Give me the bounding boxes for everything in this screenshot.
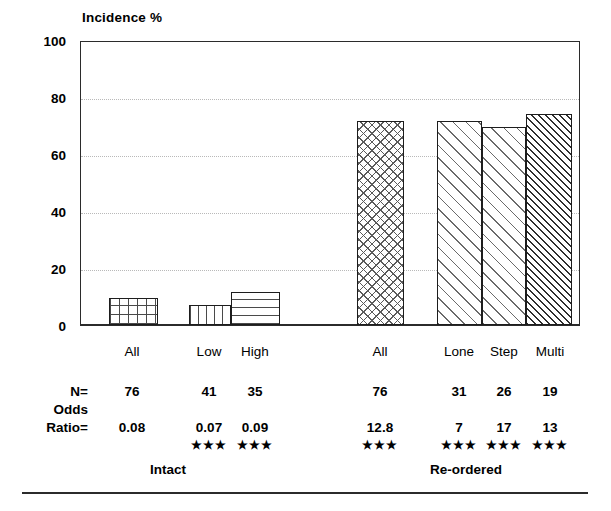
- y-tick-0: 0: [24, 319, 66, 334]
- bar-intact-low[interactable]: [189, 305, 231, 325]
- n-value-reordered-step: 26: [496, 384, 511, 399]
- x-label-intact-low: Low: [197, 344, 222, 359]
- n-value-reordered-multi: 19: [542, 384, 557, 399]
- x-label-reordered-lone: Lone: [444, 344, 474, 359]
- odds-value-reordered-multi: 13: [542, 420, 557, 435]
- row-label-odds-line2: Ratio=: [0, 420, 88, 435]
- significance-reordered-lone: ★★★: [441, 438, 477, 452]
- odds-value-intact-low: 0.07: [196, 420, 222, 435]
- y-tick-40: 40: [24, 205, 66, 220]
- odds-value-intact-high: 0.09: [242, 420, 268, 435]
- significance-reordered-all: ★★★: [362, 438, 398, 452]
- bar-reordered-lone[interactable]: [437, 121, 482, 325]
- significance-intact-low: ★★★: [191, 438, 227, 452]
- n-value-intact-high: 35: [247, 384, 262, 399]
- y-tick-60: 60: [24, 148, 66, 163]
- bar-reordered-multi[interactable]: [526, 114, 572, 325]
- x-label-reordered-all: All: [372, 344, 387, 359]
- x-label-intact-high: High: [241, 344, 269, 359]
- bottom-rule: [22, 492, 588, 494]
- significance-intact-high: ★★★: [237, 438, 273, 452]
- significance-reordered-step: ★★★: [486, 438, 522, 452]
- x-label-reordered-step: Step: [490, 344, 518, 359]
- bar-intact-high[interactable]: [231, 292, 280, 325]
- figure-root: Incidence % 100 80 60 40 20 0 All Low Hi…: [0, 0, 611, 511]
- plot-area: [80, 41, 580, 326]
- odds-value-reordered-lone: 7: [455, 420, 463, 435]
- y-axis-title: Incidence %: [82, 10, 162, 25]
- odds-value-reordered-step: 17: [496, 420, 511, 435]
- odds-value-intact-all: 0.08: [119, 420, 145, 435]
- bar-intact-all[interactable]: [109, 298, 158, 325]
- n-value-reordered-all: 76: [372, 384, 387, 399]
- gridline-80: [81, 99, 579, 100]
- bar-reordered-all[interactable]: [357, 121, 404, 325]
- group-label-intact: Intact: [150, 462, 186, 477]
- row-label-n: N=: [0, 384, 88, 399]
- significance-reordered-multi: ★★★: [532, 438, 568, 452]
- n-value-intact-all: 76: [124, 384, 139, 399]
- row-label-odds-line1: Odds: [0, 402, 88, 417]
- y-tick-80: 80: [24, 91, 66, 106]
- odds-value-reordered-all: 12.8: [367, 420, 393, 435]
- n-value-reordered-lone: 31: [451, 384, 466, 399]
- y-tick-20: 20: [24, 262, 66, 277]
- bar-reordered-step[interactable]: [482, 127, 526, 325]
- x-label-intact-all: All: [124, 344, 139, 359]
- y-tick-100: 100: [24, 34, 66, 49]
- group-label-reordered: Re-ordered: [430, 462, 502, 477]
- x-label-reordered-multi: Multi: [536, 344, 565, 359]
- n-value-intact-low: 41: [201, 384, 216, 399]
